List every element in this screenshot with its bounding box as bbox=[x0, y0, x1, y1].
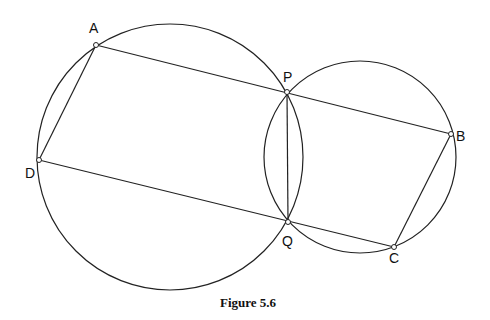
point-C bbox=[392, 245, 397, 250]
label-D: D bbox=[25, 165, 35, 181]
point-Q bbox=[286, 220, 291, 225]
label-C: C bbox=[389, 250, 399, 266]
segment-DC bbox=[39, 160, 394, 247]
segment-AD bbox=[39, 45, 96, 160]
label-Q: Q bbox=[282, 233, 293, 249]
point-P bbox=[285, 90, 290, 95]
geometry-figure: A P B D Q C Figure 5.6 bbox=[0, 0, 490, 320]
point-D bbox=[37, 158, 42, 163]
point-A bbox=[94, 43, 99, 48]
right-circle bbox=[264, 61, 456, 253]
segment-PQ bbox=[287, 92, 288, 222]
label-B: B bbox=[456, 128, 465, 144]
label-A: A bbox=[89, 20, 99, 36]
figure-caption: Figure 5.6 bbox=[220, 295, 277, 310]
label-P: P bbox=[283, 69, 292, 85]
segment-AB bbox=[96, 45, 451, 134]
point-B bbox=[449, 132, 454, 137]
